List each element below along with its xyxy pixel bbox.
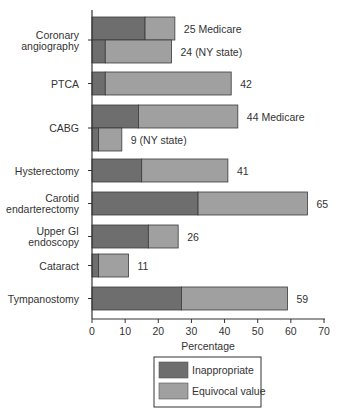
category-label: Cataract (39, 260, 79, 272)
bar-value-label: 41 (237, 165, 249, 177)
bar-inappropriate (92, 17, 145, 40)
bar-equivocal (105, 40, 171, 63)
bar-equivocal (99, 254, 129, 277)
x-tick-label: 20 (152, 325, 164, 337)
bar-inappropriate (92, 287, 181, 310)
category-label: PTCA (51, 78, 79, 90)
category-label: Carotidendarterectomy (6, 192, 80, 215)
legend-swatch (159, 362, 188, 378)
bar-value-label: 11 (137, 260, 148, 272)
bar-equivocal (99, 128, 122, 151)
category-labels: CoronaryangiographyPTCACABGHysterectomyC… (6, 29, 80, 305)
bar-inappropriate (92, 105, 138, 128)
legend-label: Equivocal value (192, 385, 266, 397)
category-label: Coronaryangiography (21, 29, 80, 52)
bar-inappropriate (92, 254, 99, 277)
bar-inappropriate (92, 192, 198, 215)
bar-value-label: 24 (NY state) (181, 46, 243, 58)
bar-value-label: 44 Medicare (247, 111, 305, 123)
category-label: Hysterectomy (15, 165, 80, 177)
bar-equivocal (145, 17, 175, 40)
category-label: Upper GIendoscopy (28, 225, 80, 248)
bars-layer: 25 Medicare24 (NY state)4244 Medicare9 (… (92, 17, 328, 310)
x-tick-label: 40 (219, 325, 231, 337)
category-label: CABG (49, 122, 79, 134)
x-tick-label: 60 (285, 325, 297, 337)
bar-value-label: 65 (316, 198, 328, 210)
bar-inappropriate (92, 128, 99, 151)
x-tick-label: 10 (119, 325, 131, 337)
x-tick-label: 70 (318, 325, 330, 337)
legend: InappropriateEquivocal value (154, 357, 266, 407)
stacked-bar-chart: 25 Medicare24 (NY state)4244 Medicare9 (… (0, 0, 343, 414)
bar-equivocal (105, 72, 231, 95)
bar-inappropriate (92, 225, 148, 248)
bar-equivocal (148, 225, 178, 248)
x-axis-title: Percentage (181, 340, 235, 352)
bar-value-label: 42 (240, 78, 252, 90)
category-label: Tympanostomy (8, 293, 80, 305)
legend-swatch (159, 383, 188, 399)
bar-inappropriate (92, 40, 105, 63)
bar-equivocal (142, 159, 228, 182)
bar-value-label: 9 (NY state) (131, 134, 187, 146)
x-tick-label: 0 (89, 325, 95, 337)
bar-equivocal (181, 287, 287, 310)
x-tick-label: 30 (186, 325, 198, 337)
bar-equivocal (138, 105, 237, 128)
x-tick-label: 50 (252, 325, 264, 337)
bar-value-label: 26 (187, 231, 199, 243)
bar-equivocal (198, 192, 307, 215)
bar-inappropriate (92, 159, 142, 182)
bar-value-label: 59 (297, 293, 309, 305)
bar-value-label: 25 Medicare (184, 23, 242, 35)
legend-label: Inappropriate (192, 364, 254, 376)
bar-inappropriate (92, 72, 105, 95)
